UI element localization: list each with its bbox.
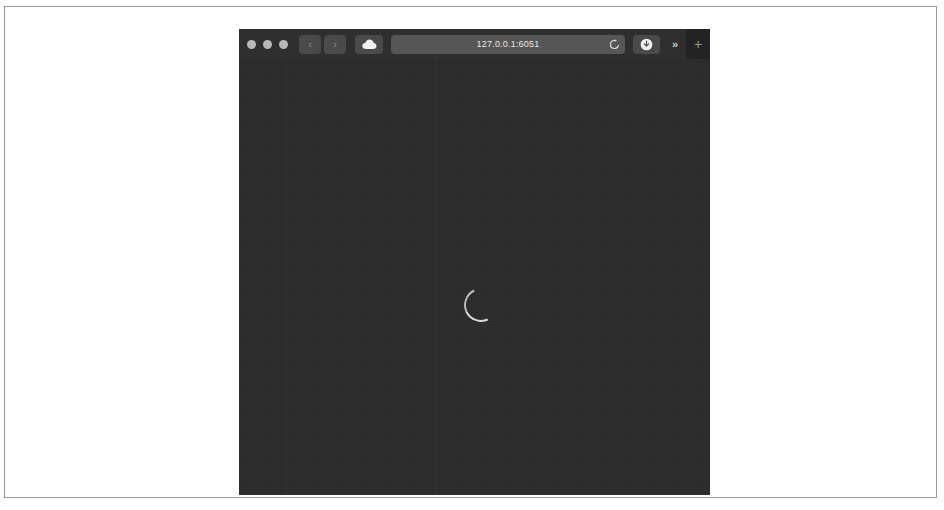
content-band-left xyxy=(286,59,287,495)
page-frame: ‹ › 127.0.0.1:6051 xyxy=(4,6,937,498)
url-text: 127.0.0.1:6051 xyxy=(477,39,540,49)
zoom-window-button[interactable] xyxy=(279,40,288,49)
reload-button[interactable] xyxy=(608,38,620,50)
page-content-area[interactable] xyxy=(239,59,710,495)
chevron-double-right-icon: » xyxy=(672,38,678,50)
browser-toolbar: ‹ › 127.0.0.1:6051 xyxy=(239,29,710,59)
chevron-right-icon: › xyxy=(333,39,337,50)
cloud-icon xyxy=(362,39,377,50)
window-traffic-lights xyxy=(247,40,288,49)
loading-spinner-icon xyxy=(459,283,503,327)
content-texture xyxy=(239,59,710,495)
reload-icon xyxy=(609,39,620,50)
sidebar-button[interactable] xyxy=(355,35,383,54)
toolbar-overflow-button[interactable]: » xyxy=(666,35,684,54)
address-bar[interactable]: 127.0.0.1:6051 xyxy=(391,35,625,54)
browser-window: ‹ › 127.0.0.1:6051 xyxy=(239,29,710,495)
navigation-button-group: ‹ › xyxy=(299,35,346,54)
new-tab-button[interactable]: + xyxy=(686,29,710,59)
download-icon xyxy=(640,38,653,51)
chevron-left-icon: ‹ xyxy=(308,39,312,50)
minimize-window-button[interactable] xyxy=(263,40,272,49)
downloads-button[interactable] xyxy=(633,35,660,54)
back-button[interactable]: ‹ xyxy=(299,35,321,54)
plus-icon: + xyxy=(694,36,702,52)
content-band-center xyxy=(435,59,436,495)
forward-button[interactable]: › xyxy=(324,35,346,54)
close-window-button[interactable] xyxy=(247,40,256,49)
